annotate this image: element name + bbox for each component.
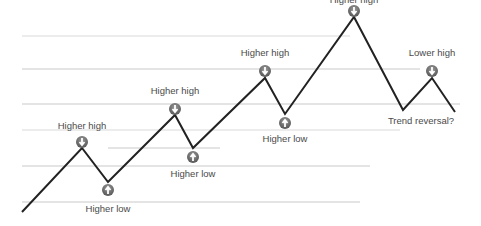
trend-reversal-label: Trend reversal? [388, 116, 454, 126]
trend-diagram [0, 0, 481, 226]
arrow-up-icon [102, 183, 115, 196]
swing-high-label: Lower high [409, 48, 455, 58]
arrow-down-icon [348, 4, 361, 17]
swing-high-label: Higher high [151, 86, 200, 96]
arrow-down-icon [169, 102, 182, 115]
swing-low-label: Higher low [86, 204, 131, 214]
swing-low-label: Higher low [171, 169, 216, 179]
arrow-up-icon [187, 150, 200, 163]
arrow-down-icon [76, 135, 89, 148]
swing-high-label: Higher high [58, 121, 107, 131]
arrow-down-icon [259, 64, 272, 77]
arrow-down-icon [426, 64, 439, 77]
swing-high-label: Higher high [241, 48, 290, 58]
arrow-up-icon [279, 116, 292, 129]
swing-low-label: Higher low [263, 134, 308, 144]
swing-high-label: Higher high [330, 0, 379, 5]
